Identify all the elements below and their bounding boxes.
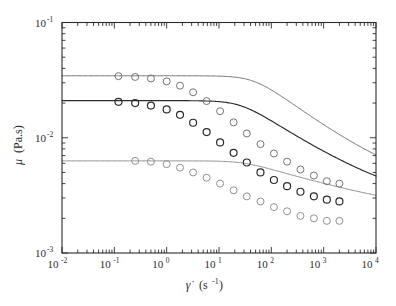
x-tick-label-base: 10 — [152, 258, 164, 270]
data-marker-upper-curve — [284, 158, 291, 165]
y-axis-title: μ (Pa.s) — [11, 125, 25, 166]
data-marker-middle-curve — [132, 100, 139, 107]
data-marker-lower-curve — [284, 208, 291, 215]
y-tick-label-base: 10 — [35, 17, 47, 29]
y-tick-label-exponent: -1 — [47, 15, 53, 24]
data-marker-upper-curve — [203, 98, 210, 105]
data-marker-middle-curve — [243, 159, 250, 166]
x-axis-title-unit-exp: -1 — [212, 277, 219, 286]
data-marker-middle-curve — [147, 102, 154, 109]
x-tick-label-base: 10 — [309, 258, 321, 270]
data-marker-middle-curve — [270, 176, 277, 183]
x-tick-label-exponent: 1 — [218, 256, 222, 265]
data-marker-middle-curve — [217, 139, 224, 146]
data-marker-lower-curve — [217, 180, 224, 187]
data-marker-upper-curve — [336, 180, 343, 187]
data-marker-upper-curve — [190, 89, 197, 96]
y-tick-label-base: 10 — [35, 247, 47, 259]
x-tick-label-base: 10 — [205, 258, 217, 270]
x-axis-title-unit-close: ) — [219, 278, 223, 292]
x-tick-label-exponent: 0 — [166, 256, 170, 265]
data-marker-lower-curve — [177, 164, 184, 171]
data-marker-upper-curve — [115, 73, 122, 80]
y-tick-label-base: 10 — [35, 132, 47, 144]
data-marker-middle-curve — [323, 196, 330, 203]
data-marker-upper-curve — [230, 119, 237, 126]
figure-container: 10-210-1100101102103104 10-110-210-3 γ̇ … — [0, 0, 396, 306]
data-marker-upper-curve — [177, 82, 184, 89]
data-marker-lower-curve — [297, 212, 304, 219]
data-marker-middle-curve — [230, 149, 237, 156]
data-marker-middle-curve — [190, 119, 197, 126]
x-tick-label-exponent: 3 — [323, 256, 327, 265]
data-marker-upper-curve — [270, 150, 277, 157]
data-marker-middle-curve — [257, 169, 264, 176]
data-marker-upper-curve — [323, 178, 330, 185]
data-marker-middle-curve — [163, 106, 170, 113]
data-marker-lower-curve — [257, 198, 264, 205]
data-marker-upper-curve — [147, 75, 154, 82]
data-marker-middle-curve — [310, 193, 317, 200]
x-tick-label-base: 10 — [362, 258, 374, 270]
data-marker-middle-curve — [177, 111, 184, 118]
data-marker-upper-curve — [132, 73, 139, 80]
y-axis-title-unit: (Pa.s) — [11, 125, 25, 153]
data-marker-upper-curve — [257, 141, 264, 148]
viscosity-shear-rate-chart: 10-210-1100101102103104 10-110-210-3 γ̇ … — [0, 0, 396, 306]
y-tick-label-exponent: -2 — [47, 130, 53, 139]
data-marker-lower-curve — [336, 217, 343, 224]
x-tick-label-exponent: 4 — [375, 256, 379, 265]
x-tick-label-exponent: -1 — [113, 256, 119, 265]
data-marker-lower-curve — [132, 157, 139, 164]
y-axis-title-symbol: μ — [11, 159, 25, 166]
data-marker-middle-curve — [336, 198, 343, 205]
x-tick-label-exponent: -2 — [61, 256, 67, 265]
data-marker-middle-curve — [115, 98, 122, 105]
x-tick-label-base: 10 — [48, 258, 60, 270]
x-tick-label-exponent: 2 — [270, 256, 274, 265]
data-marker-middle-curve — [297, 188, 304, 195]
data-marker-lower-curve — [310, 215, 317, 222]
data-marker-lower-curve — [270, 204, 277, 211]
data-marker-lower-curve — [163, 161, 170, 168]
data-marker-upper-curve — [217, 108, 224, 115]
data-marker-lower-curve — [243, 193, 250, 200]
y-tick-label-exponent: -3 — [47, 245, 53, 254]
data-marker-middle-curve — [284, 183, 291, 190]
x-tick-label-base: 10 — [100, 258, 112, 270]
x-tick-label-base: 10 — [257, 258, 269, 270]
x-axis-title-unit: (s — [199, 278, 208, 292]
data-marker-upper-curve — [310, 172, 317, 179]
data-marker-upper-curve — [243, 130, 250, 137]
data-marker-lower-curve — [190, 169, 197, 176]
data-marker-lower-curve — [203, 174, 210, 181]
data-marker-upper-curve — [297, 166, 304, 173]
chart-background — [0, 0, 396, 306]
data-marker-lower-curve — [147, 158, 154, 165]
data-marker-middle-curve — [203, 129, 210, 136]
data-marker-lower-curve — [230, 187, 237, 194]
data-marker-lower-curve — [323, 217, 330, 224]
data-marker-upper-curve — [163, 78, 170, 85]
